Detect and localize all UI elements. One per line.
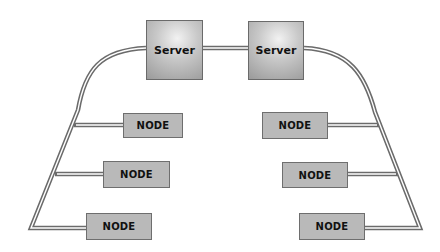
node-label: NODE [299,170,332,181]
cable-layer [0,0,440,252]
node-left-1: NODE [123,113,183,138]
server-label: Server [154,44,195,57]
node-label: NODE [137,120,170,131]
cable-left-bus [31,48,146,228]
server-box-left: Server [146,20,203,80]
node-left-2: NODE [103,161,170,188]
node-left-3: NODE [86,213,152,240]
node-right-3: NODE [299,213,365,240]
node-label: NODE [316,221,349,232]
node-label: NODE [120,169,153,180]
node-right-1: NODE [262,112,328,139]
node-label: NODE [279,120,312,131]
server-label: Server [256,44,297,57]
node-label: NODE [103,221,136,232]
node-right-2: NODE [282,162,348,188]
server-box-right: Server [248,21,304,80]
